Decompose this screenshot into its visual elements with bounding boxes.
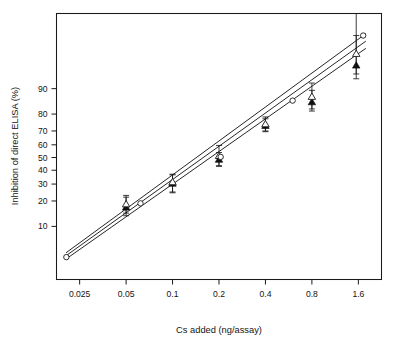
y-tick-label-4: 50 [38,153,48,163]
marker-open-triangle [262,120,269,126]
y-axis-ticks [52,89,57,227]
marker-open-triangle [122,200,129,206]
marker-filled-triangle [353,62,360,68]
regression-lines [66,34,365,259]
x-axis-title: Cs added (ng/assay) [176,325,262,335]
y-tick-label-6: 70 [38,126,48,136]
regression-line-middle [66,41,365,255]
y-tick-label-5: 60 [38,140,48,150]
y-axis-title: Inhibition of direct ELISA (%) [10,87,20,205]
x-tick-label-2: 0.1 [167,289,179,299]
x-tick-label-1: 0.05 [118,289,135,299]
marker-open-circle [138,201,143,206]
marker-open-circle [64,254,69,259]
y-tick-label-3: 40 [38,165,48,175]
y-tick-label-0: 10 [38,221,48,231]
x-tick-label-0: 0.025 [69,289,91,299]
y-tick-label-8: 90 [38,84,48,94]
y-axis-tick-labels: 102030405060708090 [38,84,48,232]
y-tick-label-2: 30 [38,179,48,189]
x-axis-ticks [80,280,359,285]
x-tick-label-6: 1.6 [352,289,364,299]
chart-canvas: 0.0250.050.10.20.40.81.6 102030405060708… [0,0,398,350]
y-tick-label-7: 80 [38,109,48,119]
y-tick-label-1: 20 [38,196,48,206]
x-axis-tick-labels: 0.0250.050.10.20.40.81.6 [69,289,365,299]
marker-open-triangle [308,93,315,99]
regression-line-lower [66,49,365,259]
x-tick-label-5: 0.8 [306,289,318,299]
regression-line-upper [66,34,365,253]
marker-open-circle [218,154,223,159]
marker-open-circle [290,98,295,103]
chart-figure: 0.0250.050.10.20.40.81.6 102030405060708… [0,0,398,350]
marker-open-circle [361,33,366,38]
x-tick-label-3: 0.2 [213,289,225,299]
x-tick-label-4: 0.4 [259,289,271,299]
